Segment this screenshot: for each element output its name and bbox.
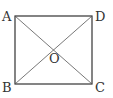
square-diagram: A D B C O	[0, 0, 113, 98]
label-d: D	[95, 9, 105, 24]
label-a: A	[1, 9, 12, 24]
label-o: O	[49, 51, 60, 66]
label-b: B	[2, 80, 12, 95]
label-c: C	[95, 80, 105, 95]
